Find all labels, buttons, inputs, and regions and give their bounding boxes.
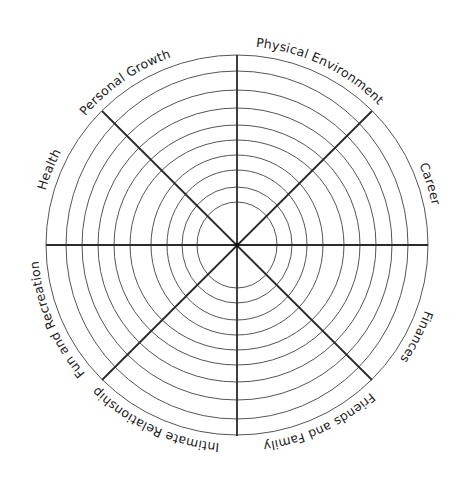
- label-physical-environment: Physical Environment: [255, 35, 387, 107]
- center-dot: [235, 243, 239, 247]
- label-finances: Finances: [397, 309, 436, 366]
- label-career: Career: [416, 160, 444, 207]
- spokes-group: [46, 55, 428, 436]
- label-fun-and-recreation: Fun and Recreation: [27, 260, 88, 381]
- life-wheel-diagram: Physical Environment Career Finances Fri…: [0, 0, 466, 492]
- label-intimate-relationship: Intimate Relationship: [89, 384, 220, 455]
- label-personal-growth: Personal Growth: [76, 46, 172, 118]
- label-friends-and-family: Friends and Family: [262, 390, 379, 454]
- label-health: Health: [34, 146, 64, 192]
